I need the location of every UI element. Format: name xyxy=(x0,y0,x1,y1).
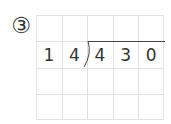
divisor-digit: 1 xyxy=(36,41,62,67)
dividend-digit: 3 xyxy=(113,41,139,67)
dividend-digit: 4 xyxy=(87,41,113,67)
grid-line xyxy=(36,94,164,95)
dividend-digit: 0 xyxy=(138,41,164,67)
division-bracket-icon xyxy=(81,41,91,67)
grid-line xyxy=(36,15,164,16)
division-grid: 1 4 4 3 0 xyxy=(36,15,164,120)
grid-line xyxy=(36,119,164,120)
division-bar xyxy=(88,41,165,42)
grid-line xyxy=(36,68,164,69)
problem-number-marker: ③ xyxy=(9,14,33,38)
